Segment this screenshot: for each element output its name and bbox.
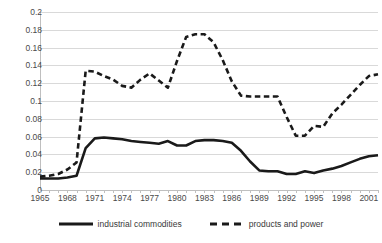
legend-label-products-and-power: products and power — [249, 219, 324, 229]
series-layer — [0, 0, 382, 243]
legend-item-industrial-commodities: industrial commodities — [59, 219, 182, 229]
line-chart: 00.020.040.060.080.10.120.140.160.180.2 … — [0, 0, 382, 243]
chart-legend: industrial commodities products and powe… — [0, 219, 382, 229]
legend-swatch-dashed-icon — [210, 220, 244, 228]
legend-label-industrial-commodities: industrial commodities — [98, 219, 182, 229]
series-line-products-and-power — [40, 34, 378, 176]
series-line-industrial-commodities — [40, 137, 378, 178]
legend-item-products-and-power: products and power — [210, 219, 324, 229]
legend-swatch-solid-icon — [59, 220, 93, 228]
